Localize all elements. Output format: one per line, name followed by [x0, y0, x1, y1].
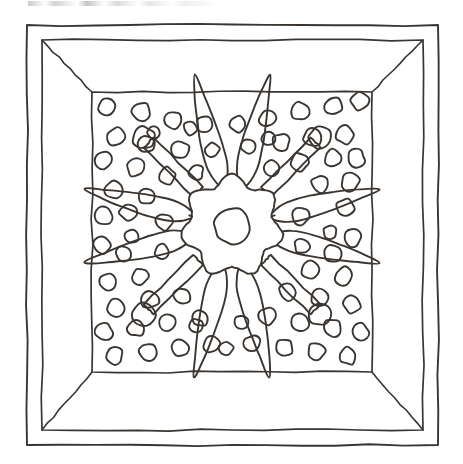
drawing-canvas — [0, 0, 463, 464]
panel-line-drawing — [0, 0, 463, 464]
